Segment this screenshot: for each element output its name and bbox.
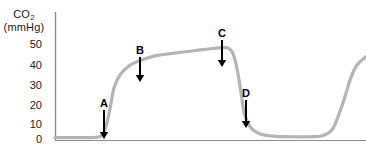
- annotation-arrow-head-c: [218, 60, 226, 67]
- marker-label-c: C: [213, 28, 231, 39]
- annotation-arrows: [100, 40, 250, 139]
- marker-label-d: D: [237, 88, 255, 99]
- capnogram-waveform: [55, 48, 366, 138]
- marker-label-a: A: [95, 98, 113, 109]
- plot-area: [0, 0, 366, 147]
- annotation-arrow-head-b: [136, 75, 144, 82]
- capnography-chart: CO2 (mmHg) 50 40 30 20 10 0 A B C D: [0, 0, 366, 147]
- marker-label-b: B: [131, 45, 149, 56]
